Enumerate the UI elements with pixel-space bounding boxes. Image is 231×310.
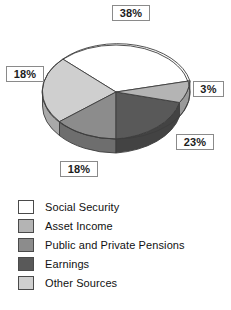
legend-item-asset-income: Asset Income xyxy=(18,216,218,235)
callout-other-sources: 18% xyxy=(6,66,44,82)
callout-asset-income: 3% xyxy=(193,81,224,97)
legend-item-pensions: Public and Private Pensions xyxy=(18,235,218,254)
callout-pensions: 23% xyxy=(176,134,214,150)
legend-label-earnings: Earnings xyxy=(45,258,89,270)
callout-earnings: 18% xyxy=(60,161,98,177)
pie-chart: 38% 3% 23% 18% 18% xyxy=(0,0,231,195)
legend-label-social-security: Social Security xyxy=(45,201,119,213)
legend-label-other-sources: Other Sources xyxy=(45,277,117,289)
legend-swatch-other-sources xyxy=(18,276,34,290)
legend-item-other-sources: Other Sources xyxy=(18,273,218,292)
legend-swatch-social-security xyxy=(18,200,34,214)
callout-social-security: 38% xyxy=(112,5,150,21)
legend-swatch-pensions xyxy=(18,238,34,252)
legend-label-asset-income: Asset Income xyxy=(45,220,113,232)
legend-item-earnings: Earnings xyxy=(18,254,218,273)
legend-swatch-asset-income xyxy=(18,219,34,233)
legend-item-social-security: Social Security xyxy=(18,197,218,216)
chart-legend: Social Security Asset Income Public and … xyxy=(18,197,218,292)
pie-chart-graphic xyxy=(0,0,231,195)
legend-label-pensions: Public and Private Pensions xyxy=(45,239,185,251)
legend-swatch-earnings xyxy=(18,257,34,271)
